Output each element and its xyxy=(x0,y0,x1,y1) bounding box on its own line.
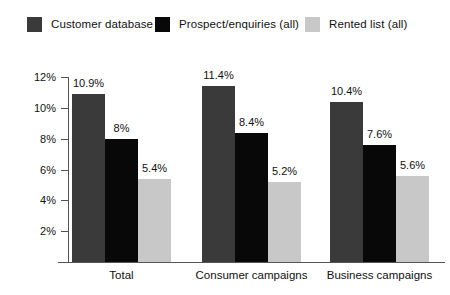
y-axis-tick-label: 12% xyxy=(20,72,56,83)
y-axis-tick-label-wrap: 2% xyxy=(16,226,56,237)
bar-value-label: 8% xyxy=(114,123,130,134)
bar[interactable] xyxy=(72,94,105,262)
y-axis-tick-label: 4% xyxy=(20,195,56,206)
bar-slot: 10.9% xyxy=(72,76,105,262)
bar-group: 11.4%8.4%5.2% xyxy=(202,76,301,262)
bar-value-label: 10.4% xyxy=(331,86,362,97)
bar-value-label: 11.4% xyxy=(203,70,233,81)
bar[interactable] xyxy=(202,86,235,262)
y-axis-tick xyxy=(61,170,69,171)
bar-slot: 8.4% xyxy=(235,76,268,262)
y-axis-tick-label-wrap: 10% xyxy=(16,103,56,114)
bar[interactable] xyxy=(396,176,429,262)
bar-slot: 8% xyxy=(105,76,138,262)
y-axis-tick-label: 2% xyxy=(20,226,56,237)
x-axis-category-label: Business campaigns xyxy=(310,269,450,282)
bar-value-label: 5.4% xyxy=(142,163,167,174)
bar-slot: 10.4% xyxy=(330,76,363,262)
y-axis-tick-label-wrap: 12% xyxy=(16,72,56,83)
bar-value-label: 8.4% xyxy=(239,117,264,128)
bar-slot: 11.4% xyxy=(202,76,235,262)
bar[interactable] xyxy=(268,182,301,262)
bar-value-label: 5.6% xyxy=(400,160,425,171)
y-axis-tick-label-wrap: 6% xyxy=(16,165,56,176)
bar-slot: 5.2% xyxy=(268,76,301,262)
x-axis-category-label: Consumer campaigns xyxy=(182,269,322,282)
bar-group: 10.9%8%5.4% xyxy=(72,76,171,262)
y-axis-tick-label: 10% xyxy=(20,103,56,114)
y-axis-tick xyxy=(61,139,69,140)
x-axis-line xyxy=(58,262,445,263)
bar-slot: 5.4% xyxy=(138,76,171,262)
bar[interactable] xyxy=(105,139,138,262)
y-axis-tick xyxy=(61,200,69,201)
x-axis-category-label: Total xyxy=(52,269,192,282)
y-axis-tick xyxy=(61,231,69,232)
bar[interactable] xyxy=(363,145,396,262)
bar[interactable] xyxy=(235,133,268,263)
y-axis-tick xyxy=(61,108,69,109)
bar[interactable] xyxy=(330,102,363,262)
bar-value-label: 5.2% xyxy=(272,166,297,177)
bar-value-label: 7.6% xyxy=(367,129,392,140)
bar-group: 10.4%7.6%5.6% xyxy=(330,76,429,262)
y-axis-tick-label: 6% xyxy=(20,165,56,176)
bar-slot: 5.6% xyxy=(396,76,429,262)
y-axis-tick-label: 8% xyxy=(20,134,56,145)
bar[interactable] xyxy=(138,179,171,262)
bar-chart-plot-area: 2%4%6%8%10%12% 10.9%8%5.4%11.4%8.4%5.2%1… xyxy=(0,0,450,295)
y-axis-tick-label-wrap: 8% xyxy=(16,134,56,145)
y-axis-tick-label-wrap: 4% xyxy=(16,195,56,206)
bar-value-label: 10.9% xyxy=(73,78,104,89)
y-axis-tick xyxy=(61,77,69,78)
bar-slot: 7.6% xyxy=(363,76,396,262)
